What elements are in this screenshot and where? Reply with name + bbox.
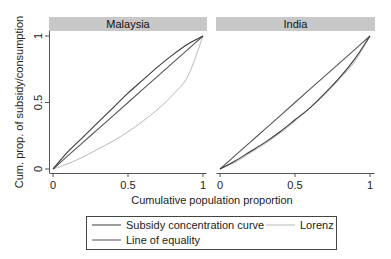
x-tick-label: 1 xyxy=(367,179,373,191)
y-tick-label: 0 xyxy=(32,166,44,172)
chart-canvas: Malaysia00.5100.51India00.51 Cum. prop. … xyxy=(0,0,391,259)
x-tick-label: 0.5 xyxy=(120,179,135,191)
x-tick-label: 1 xyxy=(200,179,206,191)
x-tick-label: 0 xyxy=(217,179,223,191)
y-tick-label: 0.5 xyxy=(32,95,44,110)
x-tick-label: 0 xyxy=(50,179,56,191)
series-line-of-equality xyxy=(53,36,203,169)
panel-title: Malaysia xyxy=(106,18,150,30)
legend-label-concentration: Subsidy concentration curve xyxy=(126,219,264,231)
y-axis-title: Cum. prop. of subsidy/consumption xyxy=(13,16,25,188)
x-tick-label: 0.5 xyxy=(287,179,302,191)
legend-label-equality: Line of equality xyxy=(126,234,200,246)
panels: Malaysia00.5100.51India00.51 xyxy=(32,17,375,191)
y-tick-label: 1 xyxy=(32,33,44,39)
legend: Subsidy concentration curve Lorenz Line … xyxy=(87,217,337,250)
panel-india: India00.51 xyxy=(216,17,375,191)
x-axis-title: Cumulative population proportion xyxy=(131,194,292,206)
panel-title: India xyxy=(284,18,309,30)
panel-malaysia: Malaysia00.5100.51 xyxy=(32,17,207,191)
legend-label-lorenz: Lorenz xyxy=(300,219,334,231)
series-line-of-equality xyxy=(220,36,370,169)
